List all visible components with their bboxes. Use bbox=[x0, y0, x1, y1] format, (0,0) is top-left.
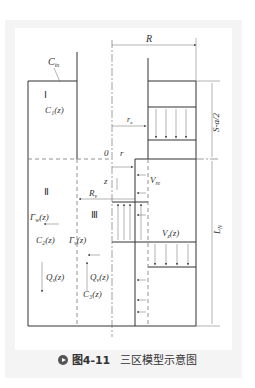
label-s-minus-a-over-2: S-a/2 bbox=[211, 113, 221, 132]
label-c1: C₁(z) bbox=[45, 105, 64, 115]
flow-arrows-down-bottom bbox=[155, 244, 188, 265]
label-region-1: Ⅰ bbox=[44, 89, 47, 100]
label-q-s: Qs(z) bbox=[46, 272, 64, 283]
label-c-in: Cin bbox=[48, 56, 59, 68]
figure-number: 图4-11 bbox=[72, 354, 111, 367]
label-R-v: Rv bbox=[88, 188, 98, 199]
play-bullet-icon bbox=[58, 355, 68, 365]
label-origin: 0 bbox=[104, 148, 109, 158]
radial-arrows bbox=[137, 175, 146, 312]
label-region-2: Ⅱ bbox=[44, 186, 49, 197]
label-r-e: re bbox=[127, 115, 133, 125]
flow-arrows-down-top bbox=[156, 109, 186, 138]
label-v-z: Vz(z) bbox=[162, 228, 179, 239]
label-c3: C₃(z) bbox=[83, 289, 102, 299]
figure-caption: 图4-11三区模型示意图 bbox=[0, 351, 255, 367]
label-r: r bbox=[120, 148, 124, 158]
flow-arrows-up bbox=[118, 204, 141, 240]
label-c2: C₂(z) bbox=[36, 235, 55, 245]
label-gamma-w: Γw(z) bbox=[29, 212, 49, 223]
label-gamma-v: Γv(z) bbox=[68, 235, 86, 246]
label-q-v: Qv(z) bbox=[90, 272, 109, 283]
label-z: z bbox=[103, 176, 108, 186]
label-region-3: Ⅲ bbox=[91, 209, 98, 220]
three-zone-model-diagram: Cin Ⅰ C₁(z) R re S-a/2 0 r z Vre Ⅱ Rv Ⅲ … bbox=[0, 0, 255, 388]
label-R: R bbox=[145, 33, 152, 44]
figure-title: 三区模型示意图 bbox=[120, 354, 197, 367]
centerlines bbox=[112, 40, 220, 337]
label-l-n: LN bbox=[212, 224, 223, 235]
label-v-re: Vre bbox=[150, 175, 161, 186]
